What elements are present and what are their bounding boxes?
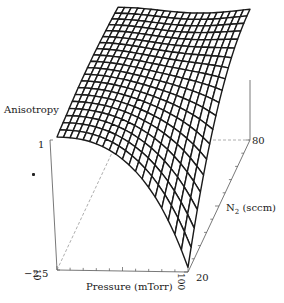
- y-tick-min: 20: [196, 272, 209, 283]
- y-tick-max: 80: [252, 135, 265, 146]
- wireframe-mesh: [57, 7, 250, 267]
- y-label-rest: (sccm): [239, 202, 276, 213]
- stray-mark: [32, 173, 35, 176]
- x-tick-max: 100: [176, 273, 186, 290]
- y-label-main: N: [226, 202, 235, 213]
- z-axis-label: Anisotropy: [4, 104, 59, 115]
- y-axis-label: N2 (sccm): [226, 202, 276, 216]
- z-tick-max: 1: [38, 139, 44, 150]
- surface-plot: [0, 0, 284, 303]
- x-tick-min: 10: [32, 269, 42, 280]
- x-axis-label: Pressure (mTorr): [86, 281, 173, 292]
